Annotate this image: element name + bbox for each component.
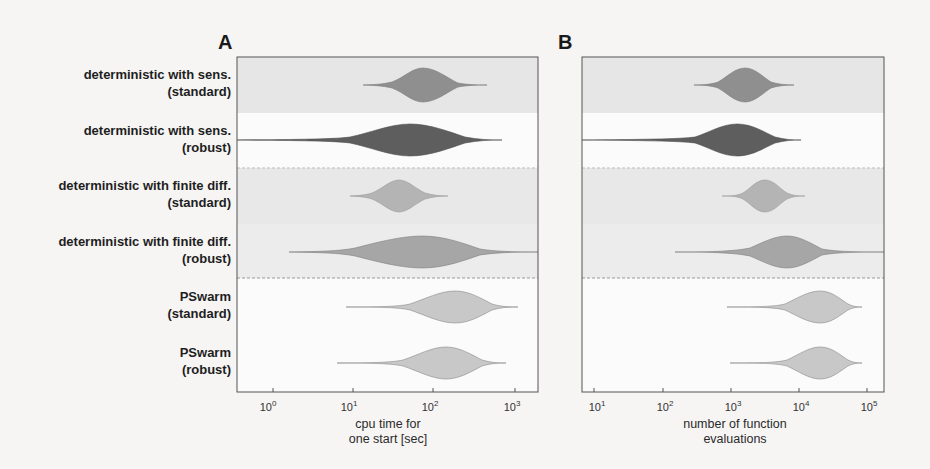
tick-a-2: 102 [422, 399, 439, 413]
tick-a-1: 101 [341, 399, 358, 413]
row-label-2-line1: deterministic with sens. [84, 123, 231, 138]
panel-a-plot [237, 57, 538, 392]
row-label-1-line2: (standard) [167, 84, 231, 99]
panel-b-xlabel-line2: evaluations [703, 432, 766, 446]
row-label-5-line1: PSwarm [180, 289, 231, 304]
tick-b-2: 102 [657, 399, 674, 413]
panel-b-tick-labels: 101 102 103 104 105 [589, 399, 878, 413]
tick-a-3: 103 [504, 399, 521, 413]
tick-b-3: 103 [725, 399, 742, 413]
tick-b-1: 101 [589, 399, 606, 413]
figure: A B deterministic with sens. (standard) … [0, 0, 930, 469]
tick-b-5: 105 [861, 399, 878, 413]
panel-a-xlabel-line1: cpu time for [355, 417, 420, 431]
row-labels: deterministic with sens. (standard) dete… [58, 67, 231, 377]
panel-a-xlabel-line2: one start [sec] [349, 432, 428, 446]
panel-letter-b: B [558, 31, 572, 53]
tick-a-0: 100 [260, 399, 277, 413]
row-label-1-line1: deterministic with sens. [84, 67, 231, 82]
row-label-5-line2: (standard) [167, 306, 231, 321]
tick-b-4: 104 [793, 399, 810, 413]
panel-letter-a: A [218, 31, 232, 53]
row-label-6-line1: PSwarm [180, 345, 231, 360]
panel-b-xlabel-line1: number of function [683, 417, 787, 431]
row-label-3-line2: (standard) [167, 195, 231, 210]
row-label-4-line1: deterministic with finite diff. [58, 234, 231, 249]
panel-b-plot [582, 57, 884, 392]
panel-a-tick-labels: 100 101 102 103 [260, 399, 521, 413]
row-label-2-line2: (robust) [182, 140, 231, 155]
row-label-4-line2: (robust) [182, 251, 231, 266]
row-label-3-line1: deterministic with finite diff. [58, 178, 231, 193]
row-label-6-line2: (robust) [182, 362, 231, 377]
